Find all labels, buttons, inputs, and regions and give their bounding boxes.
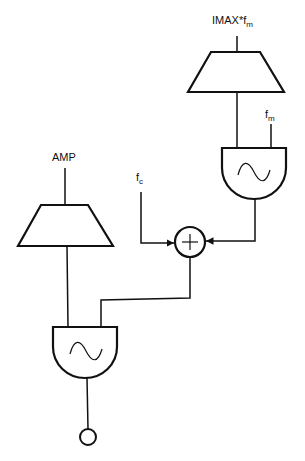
- sine-wave-icon: [70, 342, 102, 359]
- modulator-oscillator-icon: [222, 148, 286, 199]
- output-wire: [87, 378, 88, 429]
- adder-to-carrier-wire: [101, 257, 190, 327]
- carrier-env-to-osc-wire: [67, 246, 68, 327]
- mod-amp-label: IMAX*fm: [212, 14, 253, 29]
- mod-freq-label: fm: [265, 108, 275, 123]
- mod-to-adder-wire: [206, 199, 255, 241]
- sine-wave-icon: [238, 163, 270, 180]
- carrier-freq-wire: [141, 192, 174, 243]
- fm-synthesis-diagram: IMAX*fm fm fc AMP: [0, 0, 305, 461]
- carrier-envelope-icon: [18, 205, 113, 246]
- modulator-envelope-icon: [188, 52, 284, 92]
- output-icon: [80, 429, 96, 445]
- carrier-oscillator-icon: [53, 327, 117, 378]
- carrier-amp-label: AMP: [52, 151, 76, 163]
- carrier-freq-label: fc: [136, 171, 143, 186]
